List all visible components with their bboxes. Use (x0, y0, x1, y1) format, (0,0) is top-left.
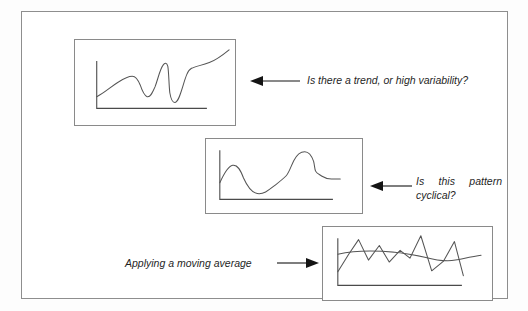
annotation-2-arrow (370, 180, 412, 192)
chart-panel-3 (322, 226, 493, 301)
chart-1-axes (97, 61, 207, 108)
left-arrow-icon (250, 75, 300, 87)
chart-3-series-raw-series (338, 236, 464, 276)
chart-2-svg (206, 139, 362, 213)
figure-canvas: Is there a trend, or high variability? I… (0, 0, 528, 311)
chart-1-svg (75, 40, 235, 125)
annotation-3-text: Applying a moving average (125, 256, 252, 270)
chart-1-series-trend-with-variability (97, 50, 229, 103)
annotation-1-arrow (250, 75, 300, 87)
annotation-2-label-line-2: cyclical? (416, 188, 502, 202)
annotation-1-text: Is there a trend, or high variability? (307, 73, 468, 87)
right-arrow-icon (277, 257, 319, 269)
chart-panel-1 (74, 39, 236, 126)
chart-2-series-cyclical-pattern (220, 152, 340, 194)
chart-3-series-moving-average (338, 251, 481, 261)
chart-2-axes (220, 151, 333, 200)
annotation-2-label-line-1: Is this pattern (416, 174, 502, 188)
chart-panel-2 (205, 138, 363, 214)
annotation-1-label: Is there a trend, or high variability? (307, 74, 468, 86)
chart-3-svg (323, 227, 492, 300)
annotation-3-arrow (277, 257, 319, 269)
annotation-2-text: Is this pattern cyclical? (416, 174, 502, 202)
left-arrow-icon (370, 180, 412, 192)
figure-outer-frame: Is there a trend, or high variability? I… (21, 11, 508, 299)
annotation-3-label: Applying a moving average (125, 257, 252, 269)
